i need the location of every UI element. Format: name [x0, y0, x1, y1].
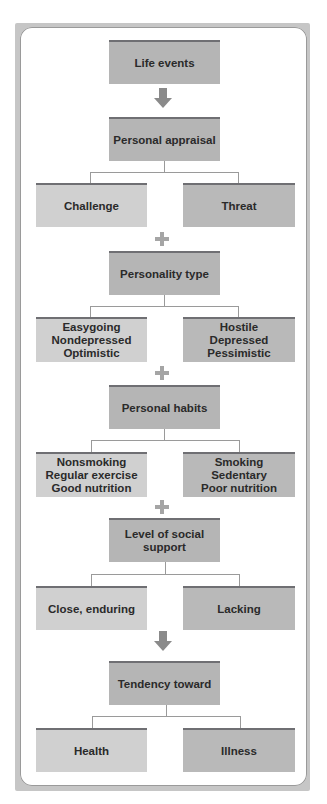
connector-line	[239, 574, 240, 586]
node-easygoing: Easygoing Nondepressed Optimistic	[36, 317, 147, 362]
node-tendency-toward: Tendency toward	[109, 661, 220, 705]
node-label: Personality type	[120, 268, 209, 281]
node-close-enduring: Close, enduring	[36, 586, 147, 630]
connector-line	[240, 716, 241, 728]
connector-line	[91, 440, 240, 441]
arrow-down-icon	[157, 88, 169, 108]
node-label: Smoking Sedentary Poor nutrition	[201, 456, 277, 495]
node-personality-type: Personality type	[109, 251, 220, 295]
node-threat: Threat	[183, 183, 295, 227]
connector-line	[164, 161, 165, 172]
node-label: Close, enduring	[48, 603, 135, 616]
plus-icon	[155, 366, 169, 380]
node-nonsmoking: Nonsmoking Regular exercise Good nutriti…	[36, 452, 147, 497]
connector-line	[164, 429, 165, 440]
node-lacking: Lacking	[183, 586, 295, 630]
node-label: Easygoing Nondepressed Optimistic	[52, 321, 132, 360]
plus-icon	[155, 232, 169, 246]
node-hostile: Hostile Depressed Pessimistic	[183, 317, 295, 362]
connector-line	[91, 574, 92, 586]
connector-line	[238, 306, 239, 317]
node-personal-habits: Personal habits	[109, 385, 220, 429]
node-illness: Illness	[183, 728, 295, 772]
node-label: Hostile Depressed Pessimistic	[207, 321, 270, 360]
node-label: Level of social support	[109, 528, 220, 554]
node-label: Lacking	[217, 603, 260, 616]
connector-line	[90, 306, 91, 317]
connector-line	[165, 562, 166, 574]
node-life-events: Life events	[109, 40, 220, 84]
node-label: Personal habits	[122, 402, 208, 415]
connector-line	[91, 440, 92, 452]
node-label: Nonsmoking Regular exercise Good nutriti…	[45, 456, 137, 495]
plus-icon	[155, 500, 169, 514]
node-label: Life events	[134, 57, 194, 70]
connector-line	[92, 716, 93, 728]
node-label: Threat	[221, 200, 256, 213]
node-health: Health	[36, 728, 147, 772]
node-label: Challenge	[64, 200, 119, 213]
connector-line	[90, 172, 91, 183]
connector-line	[238, 172, 239, 183]
connector-line	[90, 306, 239, 307]
node-label: Illness	[221, 745, 257, 758]
node-label: Personal appraisal	[113, 134, 215, 147]
node-personal-appraisal: Personal appraisal	[109, 117, 220, 161]
node-label: Health	[74, 745, 109, 758]
connector-line	[164, 295, 165, 306]
node-challenge: Challenge	[36, 183, 147, 227]
connector-line	[92, 716, 241, 717]
node-label: Tendency toward	[118, 678, 212, 691]
connector-line	[90, 172, 239, 173]
arrow-down-icon	[157, 631, 169, 651]
connector-line	[91, 574, 240, 575]
node-social-support: Level of social support	[109, 518, 220, 562]
connector-line	[166, 705, 167, 716]
node-smoking: Smoking Sedentary Poor nutrition	[183, 452, 295, 497]
connector-line	[239, 440, 240, 452]
